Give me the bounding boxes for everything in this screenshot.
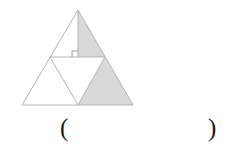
close-paren: ) bbox=[208, 113, 216, 143]
answer-blank[interactable] bbox=[76, 115, 204, 143]
open-paren: ( bbox=[60, 113, 68, 143]
figure-root: ( ) bbox=[0, 0, 236, 149]
answer-row: ( ) bbox=[0, 113, 236, 149]
